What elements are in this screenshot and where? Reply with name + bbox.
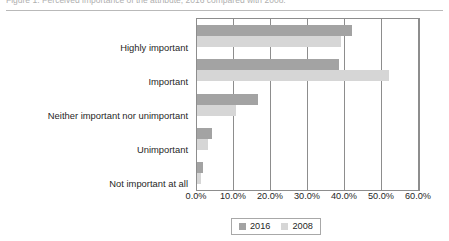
x-tick-label: 20.0% xyxy=(257,191,283,201)
x-tick-label: 50.0% xyxy=(368,191,394,201)
category-label: Not important at all xyxy=(0,178,188,189)
x-tick-label: 40.0% xyxy=(331,191,357,201)
legend-item-2016[interactable]: 2016 xyxy=(239,221,270,231)
plot-area xyxy=(196,18,420,191)
category-label: Important xyxy=(0,76,188,87)
bar-chart-figure: Highly importantImportantNeither importa… xyxy=(0,12,449,241)
value-axis: 0.0%10.0%20.0%30.0%40.0%50.0%60.0% xyxy=(196,191,420,205)
x-tick-label: 30.0% xyxy=(294,191,320,201)
category-axis: Highly importantImportantNeither importa… xyxy=(0,30,194,189)
bar-2016-1 xyxy=(197,59,339,70)
bar-2016-4 xyxy=(197,162,203,173)
figure-caption-strip: Figure 1. Perceived importance of the at… xyxy=(0,0,449,11)
x-tick-label: 10.0% xyxy=(220,191,246,201)
figure-caption-text: Figure 1. Perceived importance of the at… xyxy=(6,0,286,5)
legend-label-2016: 2016 xyxy=(250,221,270,231)
category-label: Highly important xyxy=(0,42,188,53)
bar-2016-3 xyxy=(197,128,212,139)
caption-divider xyxy=(6,10,443,11)
legend-label-2008: 2008 xyxy=(292,221,312,231)
category-label: Neither important nor unimportant xyxy=(0,110,188,121)
bar-2008-4 xyxy=(197,173,201,184)
bars-layer xyxy=(197,19,419,190)
bar-2008-3 xyxy=(197,139,208,150)
chart-legend: 2016 2008 xyxy=(231,218,321,235)
bar-2008-1 xyxy=(197,70,389,81)
category-label: Unimportant xyxy=(0,144,188,155)
x-tick-label: 0.0% xyxy=(186,191,207,201)
bar-2008-2 xyxy=(197,105,236,116)
bar-2008-0 xyxy=(197,36,341,47)
legend-swatch-icon-2016 xyxy=(239,223,246,230)
legend-swatch-icon-2008 xyxy=(281,223,288,230)
x-tick-label: 60.0% xyxy=(405,191,431,201)
legend-item-2008[interactable]: 2008 xyxy=(281,221,312,231)
bar-2016-2 xyxy=(197,94,258,105)
bar-2016-0 xyxy=(197,25,352,36)
